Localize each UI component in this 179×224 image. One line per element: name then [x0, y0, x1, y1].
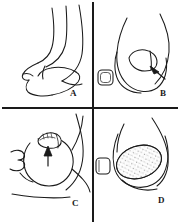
- panel-label-a: A: [70, 89, 77, 98]
- panel-label-d: D: [158, 196, 165, 205]
- panel-label-c: C: [72, 199, 79, 208]
- figure-plate: A B C D: [0, 0, 179, 224]
- figure-svg: [0, 0, 179, 224]
- panel-label-b: B: [160, 89, 166, 98]
